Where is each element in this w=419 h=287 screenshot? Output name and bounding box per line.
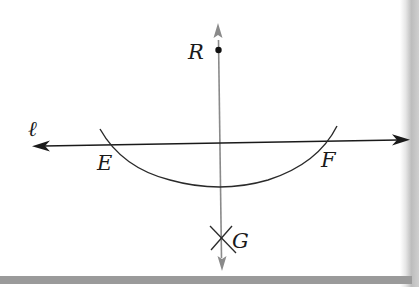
label-r: R xyxy=(187,40,204,64)
labels-layer: R ℓ E F G xyxy=(0,0,419,287)
label-g: G xyxy=(232,229,249,253)
label-e: E xyxy=(96,151,112,175)
diagram-canvas: R ℓ E F G xyxy=(0,0,419,287)
label-f: F xyxy=(320,148,337,172)
label-line-l: ℓ xyxy=(28,117,37,141)
